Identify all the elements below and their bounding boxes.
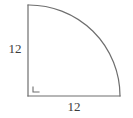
vertical-radius-label: 12 bbox=[6, 42, 24, 55]
horizontal-radius-label: 12 bbox=[58, 100, 90, 113]
